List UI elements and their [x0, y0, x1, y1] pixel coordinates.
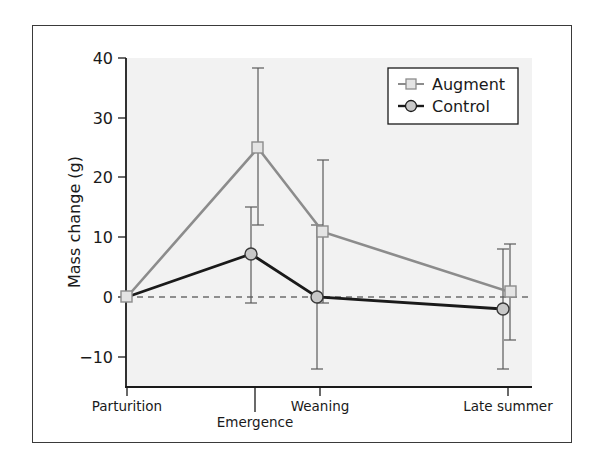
- y-axis-label: Mass change (g): [65, 156, 84, 288]
- chart: 40 30 20 10 0 −10 Mass change (g) Partur…: [0, 0, 602, 459]
- x-category-label: Parturition: [92, 398, 162, 414]
- y-ticks: [118, 58, 126, 357]
- legend-label: Augment: [432, 75, 505, 94]
- legend: Augment Control: [388, 68, 518, 124]
- y-tick-label: 10: [93, 228, 113, 247]
- x-category-labels: Parturition Emergence Weaning Late summe…: [92, 398, 553, 430]
- y-tick-label: 40: [93, 49, 113, 68]
- x-category-label: Late summer: [463, 398, 553, 414]
- y-tick-label: 30: [93, 109, 113, 128]
- y-tick-label: −10: [79, 348, 113, 367]
- y-tick-label: 20: [93, 168, 113, 187]
- square-marker-icon: [406, 79, 416, 89]
- circle-marker-icon: [406, 101, 417, 112]
- legend-label: Control: [432, 97, 490, 116]
- x-category-label: Weaning: [291, 398, 350, 414]
- x-category-label: Emergence: [217, 414, 293, 430]
- y-tick-labels: 40 30 20 10 0 −10: [79, 49, 113, 367]
- y-tick-label: 0: [103, 288, 113, 307]
